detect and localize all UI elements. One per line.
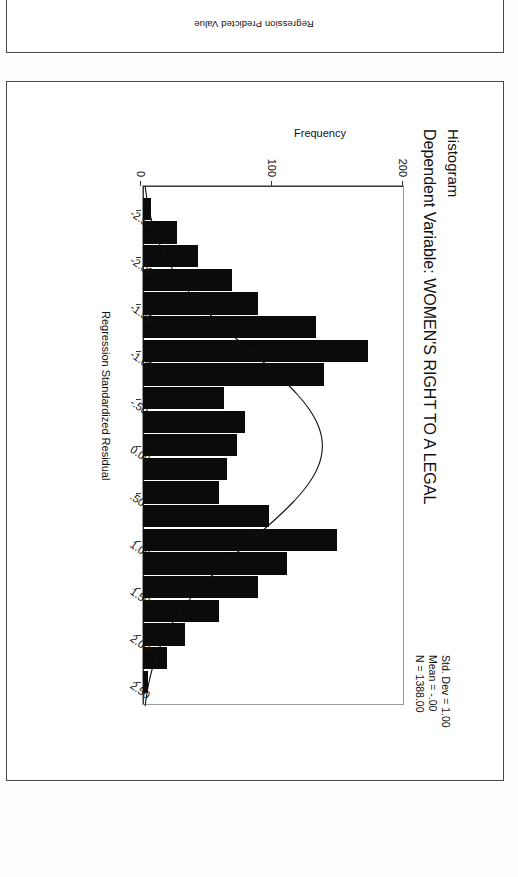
std-dev-text: Std. Dev = 1.00: [439, 655, 452, 728]
histogram-chart: Histogram Dependent Variable: WOMEN'S RI…: [44, 121, 464, 741]
scanned-page: Regression Predicted Value Histogram Dep…: [0, 0, 518, 877]
mean-text: Mean = -.00: [426, 655, 439, 728]
normal-curve: [141, 186, 403, 706]
plot-area: 0100200: [142, 185, 404, 705]
n-text: N = 1388.00: [413, 655, 426, 728]
y-tick-label: 100: [266, 159, 278, 177]
chart-subtitle: Dependent Variable: WOMEN'S RIGHT TO A L…: [420, 129, 438, 504]
y-tick-label: 0: [135, 171, 147, 177]
regression-predicted-value-axis-label: Regression Predicted Value: [5, 0, 503, 52]
y-tick: [140, 181, 141, 186]
y-tick: [271, 181, 272, 186]
adjacent-plot-panel: Regression Predicted Value: [6, 0, 504, 53]
chart-title: Histogram: [445, 129, 462, 197]
x-axis-title: Regression Standardized Residual: [100, 311, 112, 480]
histogram-panel: Histogram Dependent Variable: WOMEN'S RI…: [6, 81, 504, 781]
y-axis-title: Frequency: [294, 127, 346, 139]
y-tick-label: 200: [397, 159, 409, 177]
statistics-annotation: Std. Dev = 1.00 Mean = -.00 N = 1388.00: [413, 655, 452, 728]
y-tick: [402, 181, 403, 186]
